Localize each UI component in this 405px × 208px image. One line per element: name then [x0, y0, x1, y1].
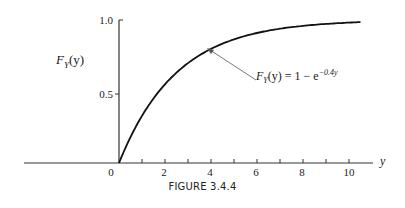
cdf-curve	[119, 22, 361, 163]
x-tick-label: 4	[207, 166, 213, 178]
x-tick-label: 0	[108, 166, 114, 178]
x-axis-label: y	[380, 154, 385, 169]
y-tick-label: 0.5	[99, 88, 113, 100]
x-tick-label: 10	[344, 166, 356, 178]
figure-caption: FIGURE 3.4.4	[0, 181, 405, 192]
annotation-arrow	[210, 50, 256, 80]
x-tick-label: 6	[253, 166, 259, 178]
x-tick-label: 8	[299, 166, 305, 178]
y-axis-label: FY(y)	[56, 52, 84, 70]
curve-annotation: FY(y) = 1 − e−0.4y	[256, 68, 338, 85]
x-tick-label: 2	[161, 166, 167, 178]
y-tick-label: 1.0	[99, 14, 113, 26]
cdf-chart: 1.0 0.5 0 2 4 6 8 10	[0, 0, 405, 208]
